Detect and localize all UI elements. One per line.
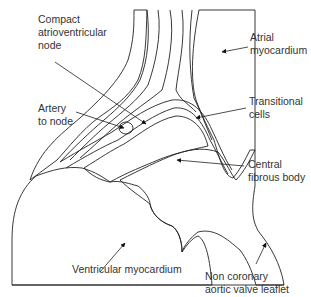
label-line: to node [38,115,73,127]
label-line: myocardium [250,44,307,56]
av-node-diagram: Compact atrioventricular node Artery to … [0,0,311,297]
label-line: Central [248,158,282,170]
label-ventricular-myocardium: Ventricular myocardium [72,263,182,275]
label-line: Compact [38,13,80,25]
label-line: node [38,39,62,51]
label-compact-av-node: Compact atrioventricular node [38,13,107,51]
artery-to-node [119,122,133,134]
label-line: Artery [38,102,67,114]
label-line: Atrial [250,31,274,43]
label-line: Ventricular myocardium [72,263,182,275]
label-line: atrioventricular [38,26,107,38]
label-line: aortic valve leaflet [205,283,289,295]
label-non-coronary-leaflet: Non coronary aortic valve leaflet [205,270,289,295]
atrial-myocardium-region [192,10,255,178]
label-line: Non coronary [205,270,269,282]
compact-av-node-region [84,116,208,182]
label-transitional-cells: Transitional cells [249,95,303,120]
label-line: cells [249,108,270,120]
label-artery-to-node: Artery to node [38,102,73,127]
label-line: fibrous body [248,171,306,183]
label-atrial-myocardium: Atrial myocardium [250,31,307,56]
label-line: Transitional [249,95,303,107]
label-central-fibrous-body: Central fibrous body [248,158,306,183]
leader-lines [55,47,266,272]
